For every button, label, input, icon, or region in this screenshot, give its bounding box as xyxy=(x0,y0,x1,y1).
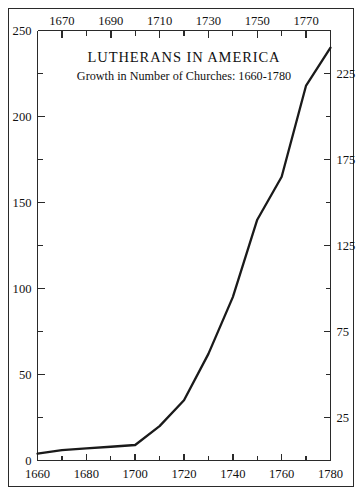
line-chart: 1660168017001720174017601780167016901710… xyxy=(0,0,364,502)
tick-label-right: 125 xyxy=(337,239,356,253)
tick-label-right: 75 xyxy=(337,325,350,339)
tick-label-top: 1690 xyxy=(98,14,123,28)
tick-label-left: 100 xyxy=(13,282,32,296)
tick-label-bottom: 1780 xyxy=(318,467,343,481)
tick-label-top: 1750 xyxy=(245,14,270,28)
tick-label-left: 250 xyxy=(13,24,32,38)
tick-labels: 1660168017001720174017601780167016901710… xyxy=(13,14,356,481)
tick-label-left: 50 xyxy=(19,368,32,382)
chart-subtitle: Growth in Number of Churches: 1660-1780 xyxy=(77,69,291,83)
tick-label-bottom: 1720 xyxy=(171,467,196,481)
data-series xyxy=(38,48,331,454)
tick-label-top: 1770 xyxy=(293,14,318,28)
tick-label-bottom: 1740 xyxy=(220,467,245,481)
tick-label-right: 25 xyxy=(337,411,350,425)
tick-label-top: 1710 xyxy=(147,14,172,28)
tick-label-bottom: 1700 xyxy=(123,467,148,481)
tick-label-bottom: 1680 xyxy=(74,467,99,481)
tick-label-bottom: 1760 xyxy=(269,467,294,481)
tick-label-top: 1730 xyxy=(196,14,221,28)
axes xyxy=(38,31,331,461)
chart-figure: 1660168017001720174017601780167016901710… xyxy=(0,0,364,502)
chart-title: LUTHERANS IN AMERICA xyxy=(88,49,281,65)
series-line-number-of-churches xyxy=(38,48,331,454)
tick-label-right: 175 xyxy=(337,153,356,167)
tick-label-top: 1670 xyxy=(49,14,74,28)
tick-label-right: 225 xyxy=(337,67,356,81)
tick-label-left: 0 xyxy=(25,454,31,468)
tick-label-left: 150 xyxy=(13,196,32,210)
tick-label-bottom: 1660 xyxy=(25,467,50,481)
tick-label-left: 200 xyxy=(13,110,32,124)
